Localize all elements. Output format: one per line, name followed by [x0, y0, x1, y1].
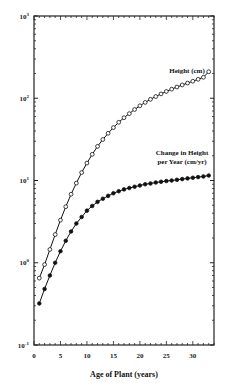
data-point: [170, 87, 174, 91]
data-point: [75, 222, 79, 226]
data-point: [196, 175, 200, 179]
series-label: Height (cm): [169, 67, 205, 75]
data-point: [64, 205, 68, 209]
data-point: [175, 178, 179, 182]
data-point: [64, 239, 68, 243]
data-point: [191, 79, 195, 83]
data-point: [154, 95, 158, 99]
data-point: [69, 192, 73, 196]
data-point: [127, 186, 131, 190]
data-point: [69, 230, 73, 234]
data-point: [96, 200, 100, 204]
x-axis-title: Age of Plant (years): [90, 370, 158, 379]
x-tick-label: 30: [189, 352, 197, 360]
data-point: [149, 97, 153, 101]
data-point: [207, 174, 211, 178]
series-layer: [37, 70, 210, 305]
data-point: [149, 182, 153, 186]
data-point: [122, 188, 126, 192]
data-point: [180, 83, 184, 87]
data-point: [59, 218, 63, 222]
data-point: [106, 131, 110, 135]
data-point: [117, 189, 121, 193]
data-point: [48, 248, 52, 252]
data-point: [175, 85, 179, 89]
data-point: [143, 182, 147, 186]
data-point: [112, 191, 116, 195]
data-point: [43, 263, 47, 267]
x-tick-label: 25: [163, 352, 171, 360]
data-point: [159, 180, 163, 184]
data-point: [122, 116, 126, 120]
data-point: [202, 75, 206, 79]
data-point: [164, 90, 168, 94]
data-point: [53, 233, 57, 237]
data-point: [90, 204, 94, 208]
data-point: [90, 152, 94, 156]
y-axis: 10310210110010-1: [18, 12, 214, 350]
data-point: [59, 249, 63, 253]
data-point: [159, 92, 163, 96]
data-point: [165, 179, 169, 183]
data-point: [106, 194, 110, 198]
data-point: [186, 81, 190, 85]
data-point: [143, 101, 147, 105]
y-tick-label: 102: [20, 94, 30, 103]
y-tick-label: 103: [20, 12, 30, 21]
y-tick-label: 100: [20, 258, 30, 267]
data-point: [112, 126, 116, 130]
x-tick-label: 0: [32, 352, 36, 360]
data-point: [117, 120, 121, 124]
data-point: [154, 181, 158, 185]
data-point: [85, 209, 89, 213]
data-point: [186, 177, 190, 181]
data-point: [85, 161, 89, 165]
series-line: [39, 72, 208, 278]
x-tick-label: 10: [83, 352, 91, 360]
data-point: [133, 108, 137, 112]
data-point: [127, 112, 131, 116]
series-label: per Year (cm/yr): [157, 158, 207, 166]
y-tick-label: 10-1: [18, 341, 30, 350]
data-point: [37, 302, 41, 306]
data-point: [180, 177, 184, 181]
data-point: [74, 181, 78, 185]
data-point: [101, 138, 105, 142]
x-tick-label: 20: [136, 352, 144, 360]
x-tick-label: 5: [59, 352, 63, 360]
data-point: [133, 185, 137, 189]
line-chart: 10310210110010-1 051015202530 Height (cm…: [0, 0, 225, 387]
data-point: [43, 287, 47, 291]
data-point: [170, 179, 174, 183]
data-point: [101, 197, 105, 201]
y-tick-label: 101: [20, 176, 30, 185]
data-point: [80, 171, 84, 175]
data-point: [207, 70, 211, 74]
data-point: [138, 184, 142, 188]
data-point: [202, 175, 206, 179]
data-point: [37, 276, 41, 280]
data-point: [196, 77, 200, 81]
data-point: [138, 104, 142, 108]
series-labels: Height (cm)Change in Heightper Year (cm/…: [156, 67, 209, 166]
data-point: [80, 215, 84, 219]
data-point: [96, 144, 100, 148]
data-point: [191, 176, 195, 180]
series-label: Change in Height: [156, 149, 209, 157]
data-point: [48, 274, 52, 278]
data-point: [53, 261, 57, 265]
x-tick-label: 15: [110, 352, 118, 360]
